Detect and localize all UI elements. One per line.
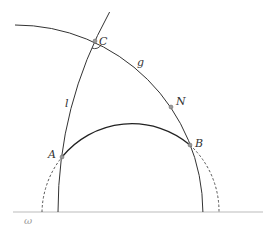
point-B bbox=[188, 143, 192, 147]
label-N: N bbox=[175, 95, 186, 108]
label-omega: ω bbox=[24, 215, 32, 226]
semicircle-solid bbox=[62, 124, 190, 157]
label-C: C bbox=[99, 35, 108, 48]
arc-g bbox=[15, 25, 203, 212]
point-A bbox=[60, 155, 64, 159]
geometry-diagram: C g N l A B ω bbox=[0, 0, 275, 232]
label-B: B bbox=[194, 137, 203, 150]
label-l: l bbox=[65, 97, 69, 110]
label-g: g bbox=[137, 56, 144, 69]
label-A: A bbox=[47, 148, 56, 161]
point-N bbox=[169, 105, 173, 109]
point-C bbox=[93, 39, 97, 43]
